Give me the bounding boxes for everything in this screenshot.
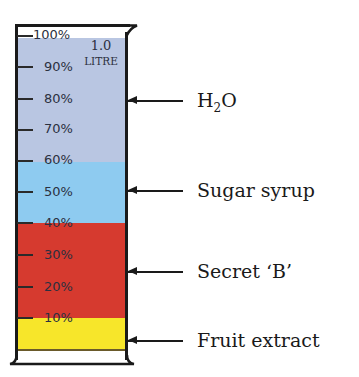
capacity-unit: LITRE — [80, 55, 122, 67]
graduation-50: 50% — [44, 185, 73, 199]
tick-20 — [17, 286, 33, 288]
arrow-sugar-syrup — [128, 190, 183, 192]
tick-10 — [17, 317, 33, 319]
tick-40 — [17, 222, 33, 224]
layer-secret-b — [17, 223, 126, 318]
graduation-60: 60% — [44, 153, 73, 167]
tick-100 — [17, 35, 33, 37]
cylinder-right-wall — [125, 32, 128, 360]
arrow-h2o — [128, 100, 183, 102]
cylinder-spout — [120, 20, 142, 40]
graduation-90: 90% — [44, 60, 73, 74]
label-secret-b: Secret ‘B’ — [197, 260, 292, 282]
tick-60 — [17, 160, 33, 162]
cylinder-base — [8, 355, 136, 369]
arrow-secret-b — [128, 271, 183, 273]
tick-50 — [17, 191, 33, 193]
graduation-100: 100% — [33, 28, 70, 42]
graduation-70: 70% — [44, 122, 73, 136]
graduation-30: 30% — [44, 248, 73, 262]
graduation-10: 10% — [44, 311, 73, 325]
tick-30 — [17, 254, 33, 256]
graduation-80: 80% — [44, 92, 73, 106]
tick-90 — [17, 66, 33, 68]
tick-80 — [17, 98, 33, 100]
label-sugar-syrup: Sugar syrup — [197, 179, 315, 201]
tick-70 — [17, 129, 33, 131]
arrow-fruit-extract — [128, 340, 183, 342]
label-fruit-extract: Fruit extract — [197, 329, 320, 351]
fruit-extract-bottom-line — [17, 349, 126, 351]
label-h2o: H2O — [197, 89, 237, 119]
graduation-40: 40% — [44, 216, 73, 230]
capacity-value: 1.0 — [86, 38, 116, 53]
graduation-20: 20% — [44, 280, 73, 294]
